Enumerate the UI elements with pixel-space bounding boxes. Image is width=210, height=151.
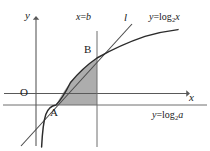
x-axis-label: x xyxy=(189,92,194,103)
figure-canvas xyxy=(0,0,210,151)
hline-arg: a xyxy=(178,109,183,120)
point-a-label: A xyxy=(50,107,58,118)
secant-line xyxy=(21,24,132,146)
curve-equation-label: y=log2x xyxy=(149,12,180,22)
hline-base: 2 xyxy=(175,114,178,121)
vertical-line-val: b xyxy=(86,11,91,22)
point-b-label: B xyxy=(84,44,91,55)
vertical-line-label: x=b xyxy=(76,12,91,22)
log-curve xyxy=(42,30,178,147)
origin-label: O xyxy=(20,87,28,98)
hline-equation-label: y=log2a xyxy=(152,110,183,120)
secant-line-label: l xyxy=(124,12,127,23)
curve-base: 2 xyxy=(172,16,175,23)
hline-fn: log xyxy=(162,109,175,120)
math-figure: y x O A B l x=b y=log2x y=log2a xyxy=(0,0,210,151)
y-axis-label: y xyxy=(25,10,30,21)
curve-arg: x xyxy=(175,11,179,22)
curve-fn: log xyxy=(159,11,172,22)
